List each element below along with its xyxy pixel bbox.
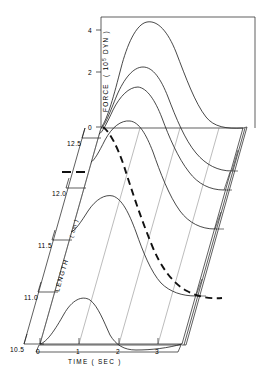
- length-tick-label-11-5: 11.5: [38, 242, 52, 249]
- force-length-time-plot: 4 2 0 FORCE ( 105 DYN ) 12.5 12.0 11.5 1…: [0, 0, 272, 380]
- length-tick-label-12-0: 12.0: [52, 190, 66, 197]
- force-axis-title: FORCE ( 105 DYN ): [102, 30, 110, 112]
- time-axis-title: TIME ( SEC ): [68, 358, 122, 366]
- time-tick-label-1: 1: [76, 348, 80, 355]
- twitch-curve-11-5-endcap: [215, 212, 221, 229]
- twitch-curve-12-5-path: [101, 22, 243, 128]
- time-gridline-3: [158, 128, 219, 344]
- length-step-11-0-riser: [38, 282, 41, 292]
- twitch-curve-11-75-endcap: [224, 172, 230, 190]
- time-axis-ticks: [40, 338, 158, 344]
- time-grid-lines: [40, 128, 219, 344]
- time-gridline-1: [79, 128, 140, 344]
- base-skirt: [36, 127, 247, 352]
- twitch-curve-11-0-path: [71, 196, 196, 296]
- force-axis-unit-suffix: DYN ): [102, 30, 110, 57]
- length-axis-unit: ( cm ): [68, 218, 79, 238]
- twitch-curve-11-5-path: [91, 121, 215, 229]
- twitch-curve-12-0-endcap: [232, 150, 238, 171]
- twitch-curve-12-0-path: [101, 67, 232, 171]
- twitch-curve-12-0: [101, 67, 238, 171]
- length-tick-label-11-0: 11.0: [24, 294, 38, 301]
- force-axis-unit-prefix: ( 10: [102, 61, 110, 77]
- force-axis-title-text: FORCE: [102, 83, 109, 112]
- twitch-curve-12-5: [101, 22, 243, 128]
- twitch-curve-11-0-endcap: [196, 279, 202, 296]
- twitch-curve-10-5-path: [40, 298, 182, 350]
- force-axis-title-group: FORCE ( 105 DYN ): [102, 30, 110, 112]
- base-skirt-right-inner: [184, 128, 245, 345]
- twitch-curve-10-5: [40, 298, 182, 350]
- time-tick-label-3: 3: [155, 348, 159, 355]
- time-gridline-2: [119, 128, 180, 344]
- length-axis-steps: [24, 128, 101, 344]
- length-tick-label-10-5: 10.5: [10, 346, 24, 353]
- force-tick-label-2: 2: [88, 69, 92, 76]
- twitch-curve-11-75: [99, 87, 230, 190]
- twitch-curve-11-0: [71, 196, 202, 296]
- length-tick-label-12-5: 12.5: [67, 140, 81, 147]
- length-axis-title: LENGTH: [53, 258, 69, 292]
- time-tick-label-0: 0: [36, 348, 40, 355]
- force-tick-label-0: 0: [88, 124, 92, 131]
- length-axis-outer-edge: [24, 128, 85, 344]
- figure-container: 4 2 0 FORCE ( 105 DYN ) 12.5 12.0 11.5 1…: [0, 0, 272, 380]
- force-tick-label-4: 4: [88, 27, 92, 34]
- time-tick-label-2: 2: [116, 348, 120, 355]
